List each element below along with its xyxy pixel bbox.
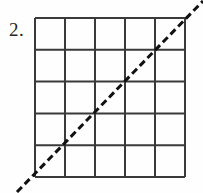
grid-diagram: [0, 0, 203, 193]
dashed-diagonal-line: [17, 1, 203, 192]
figure-canvas: 2.: [0, 0, 203, 193]
